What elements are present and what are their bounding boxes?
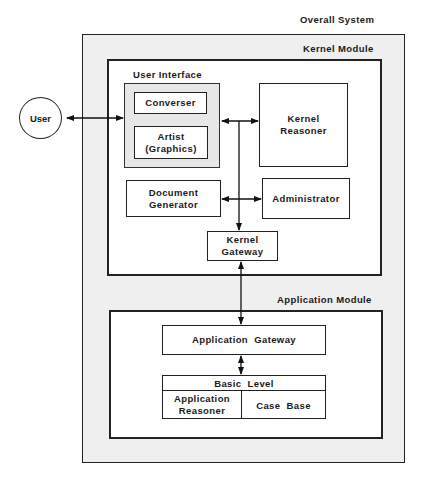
- connector-layer: [0, 0, 424, 478]
